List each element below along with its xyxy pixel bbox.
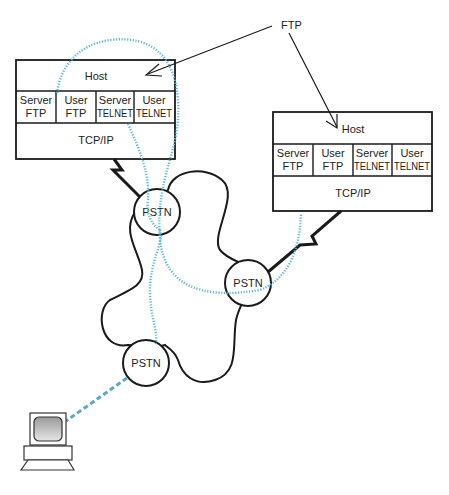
host-left-title: Host <box>85 70 108 82</box>
host-left-module-3-l1: Server <box>99 94 132 106</box>
host-left-module-4-l1: User <box>142 94 166 106</box>
ftp-annotation: FTP <box>281 19 302 31</box>
host-right-module-2-l1: User <box>321 147 345 159</box>
host-left-transport: TCP/IP <box>78 134 113 146</box>
host-right-module-1-l2: FTP <box>283 160 304 172</box>
network-diagram: Host Server FTP User FTP Server TELNET U… <box>0 0 449 495</box>
host-left-module-1-l1: Server <box>20 94 53 106</box>
host-right-module-3-l2: TELNET <box>354 160 390 172</box>
ftp-arrow-left <box>148 26 272 74</box>
host-right-module-1-l1: Server <box>277 147 310 159</box>
host-right: Host Server FTP User FTP Server TELNET U… <box>273 112 432 211</box>
host-right-module-4-l1: User <box>400 147 424 159</box>
host-right-module-4-l2: TELNET <box>394 160 430 172</box>
host-left-module-4-l2: TELNET <box>136 107 172 119</box>
pstn-node-3-label: PSTN <box>131 357 160 369</box>
host-left-module-3-l2: TELNET <box>97 107 133 119</box>
host-right-title: Host <box>342 123 365 135</box>
host-left-module-2-l2: FTP <box>66 107 87 119</box>
pstn-node-2: PSTN <box>225 260 271 306</box>
host-right-transport: TCP/IP <box>335 187 370 199</box>
link-left-host-to-pstn <box>113 159 140 197</box>
host-left-module-1-l2: FTP <box>26 107 47 119</box>
host-left-module-2-l1: User <box>64 94 88 106</box>
pstn-node-3: PSTN <box>123 340 169 386</box>
terminal-dial-link <box>66 378 127 421</box>
terminal-computer-icon <box>21 413 74 470</box>
link-right-host-to-pstn <box>268 211 341 272</box>
host-right-module-3-l1: Server <box>356 147 389 159</box>
pstn-node-2-label: PSTN <box>233 277 262 289</box>
host-right-module-2-l2: FTP <box>323 160 344 172</box>
